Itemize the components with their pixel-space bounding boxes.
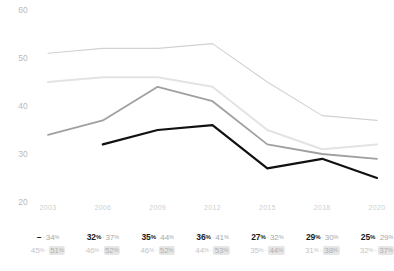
secondary-right-value: 38%	[323, 246, 340, 255]
y-axis: 6050403020	[0, 10, 36, 202]
plot-area	[40, 10, 385, 202]
data-label-row-secondary: 45%·51%	[31, 241, 65, 254]
y-axis-tick: 20	[18, 198, 28, 207]
percent-symbol: %	[333, 247, 338, 253]
secondary-left-value: 31%	[305, 246, 319, 255]
series-line-series-top-outline	[48, 44, 377, 121]
percent-symbol: %	[114, 247, 119, 253]
data-label-column: 25%·29%32%·37%	[360, 228, 394, 254]
secondary-right-value: 53%	[213, 246, 230, 255]
data-label-column: 36%·41%44%·53%	[195, 228, 229, 254]
data-label-row-secondary: 31%·38%	[305, 241, 339, 254]
data-label-column: 35%·44%46%·52%	[140, 228, 174, 254]
data-label-row-primary: 32%·37%	[86, 228, 120, 241]
percent-symbol: %	[260, 234, 265, 240]
data-label-row-primary: 25%·29%	[360, 228, 394, 241]
secondary-left-value: 35%	[250, 246, 264, 255]
percent-symbol: %	[259, 247, 264, 253]
x-axis-tick: 2009	[149, 204, 166, 211]
data-label-row-primary: 36%·41%	[195, 228, 229, 241]
percent-symbol: %	[370, 234, 375, 240]
secondary-right-value: 52%	[158, 246, 175, 255]
data-label-row-secondary: 32%·37%	[360, 241, 394, 254]
y-axis-tick: 40	[18, 102, 28, 111]
x-axis-tick: 2015	[259, 204, 276, 211]
percent-symbol: %	[94, 247, 99, 253]
data-label-row-secondary: 46%·52%	[140, 241, 174, 254]
x-axis-tick: 2003	[40, 204, 57, 211]
percent-symbol: %	[96, 234, 101, 240]
plot-svg	[40, 10, 385, 202]
percent-symbol: %	[223, 247, 228, 253]
data-label-column: 29%·30%31%·38%	[305, 228, 339, 254]
y-axis-tick: 60	[18, 6, 28, 15]
secondary-left-value: 44%	[195, 246, 209, 255]
percent-symbol: %	[334, 234, 339, 240]
series-line-series-black	[103, 125, 377, 178]
percent-symbol: %	[169, 234, 174, 240]
x-axis-tick: 2006	[94, 204, 111, 211]
data-label-row-primary: 29%·30%	[305, 228, 339, 241]
x-axis-tick: 2020	[369, 204, 386, 211]
percent-symbol: %	[206, 234, 211, 240]
secondary-right-value: 51%	[49, 246, 66, 255]
secondary-right-value: 52%	[104, 246, 121, 255]
percent-symbol: %	[40, 247, 45, 253]
percent-symbol: %	[314, 247, 319, 253]
data-label-column: –·34%45%·51%	[31, 228, 65, 254]
percent-symbol: %	[369, 247, 374, 253]
secondary-left-value: 45%	[31, 246, 45, 255]
data-label-column: 27%·32%35%·44%	[250, 228, 284, 254]
percent-symbol: %	[278, 247, 283, 253]
percent-symbol: %	[315, 234, 320, 240]
percent-symbol: %	[169, 247, 174, 253]
percent-symbol: %	[204, 247, 209, 253]
data-label-row-secondary: 46%·52%	[86, 241, 120, 254]
percent-symbol: %	[54, 234, 59, 240]
data-label-column: 32%·37%46%·52%	[86, 228, 120, 254]
percent-symbol: %	[59, 247, 64, 253]
x-axis-tick: 2018	[314, 204, 331, 211]
secondary-right-value: 44%	[268, 246, 285, 255]
data-label-row-primary: 27%·32%	[250, 228, 284, 241]
percent-symbol: %	[279, 234, 284, 240]
secondary-right-value: 37%	[378, 246, 394, 255]
data-label-row-secondary: 44%·53%	[195, 241, 229, 254]
series-line-series-light	[48, 77, 377, 149]
secondary-left-value: 46%	[86, 246, 100, 255]
data-label-grid: –·34%45%·51%32%·37%46%·52%35%·44%46%·52%…	[40, 228, 385, 264]
secondary-left-value: 46%	[140, 246, 154, 255]
percent-symbol: %	[151, 234, 156, 240]
data-label-row-secondary: 35%·44%	[250, 241, 284, 254]
y-axis-tick: 50	[18, 54, 28, 63]
secondary-left-value: 32%	[360, 246, 374, 255]
percent-symbol: %	[149, 247, 154, 253]
x-axis-tick: 2012	[204, 204, 221, 211]
y-axis-tick: 30	[18, 150, 28, 159]
percent-symbol: %	[114, 234, 119, 240]
percent-symbol: %	[224, 234, 229, 240]
data-label-row-primary: 35%·44%	[140, 228, 174, 241]
percent-symbol: %	[388, 247, 393, 253]
x-axis: 2003200620092012201520182020	[40, 204, 385, 218]
percent-symbol: %	[388, 234, 393, 240]
data-label-row-primary: –·34%	[31, 228, 65, 241]
